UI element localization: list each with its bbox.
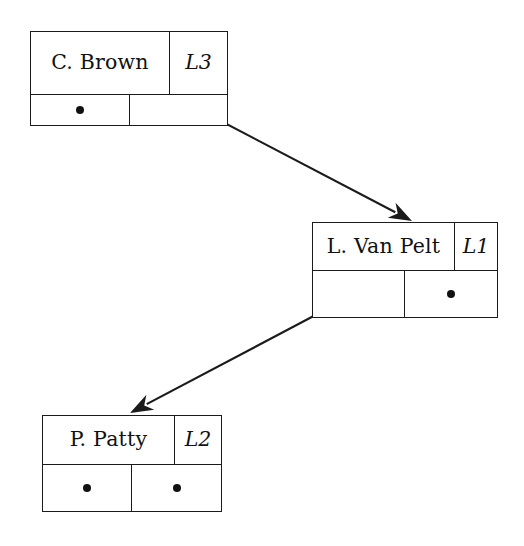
record-label-cell: L3 [170,31,228,95]
record-pointer-row [42,465,222,512]
pointer-cell-left-dot [42,465,132,512]
record-p-patty: P. PattyL2 [42,415,222,512]
null-pointer-dot-icon [83,484,91,492]
record-name-cell: P. Patty [42,415,175,465]
pointer-cell-left-link [312,271,405,318]
arrow-head-arrow-brown-to-vanpelt [388,203,412,221]
record-label-cell: L1 [455,222,498,271]
record-pointer-row [312,271,498,318]
pointer-cell-left-dot [30,95,130,126]
record-pointer-row [30,95,228,126]
record-label-cell: L2 [175,415,222,465]
pointer-cell-right-dot [132,465,222,512]
pointer-cell-right-dot [405,271,498,318]
record-c-brown: C. BrownL3 [30,31,228,126]
record-name-cell: L. Van Pelt [312,222,455,271]
pointer-cell-right-link [130,95,228,126]
diagram-canvas: C. BrownL3L. Van PeltL1P. PattyL2 [0,0,524,546]
record-header-row: P. PattyL2 [42,415,222,465]
record-l-van-pelt: L. Van PeltL1 [312,222,498,318]
record-name-cell: C. Brown [30,31,170,95]
null-pointer-dot-icon [447,290,455,298]
null-pointer-dot-icon [76,106,84,114]
null-pointer-dot-icon [173,484,181,492]
arrow-head-arrow-vanpelt-to-patty [130,395,154,413]
record-header-row: L. Van PeltL1 [312,222,498,271]
record-header-row: C. BrownL3 [30,31,228,95]
